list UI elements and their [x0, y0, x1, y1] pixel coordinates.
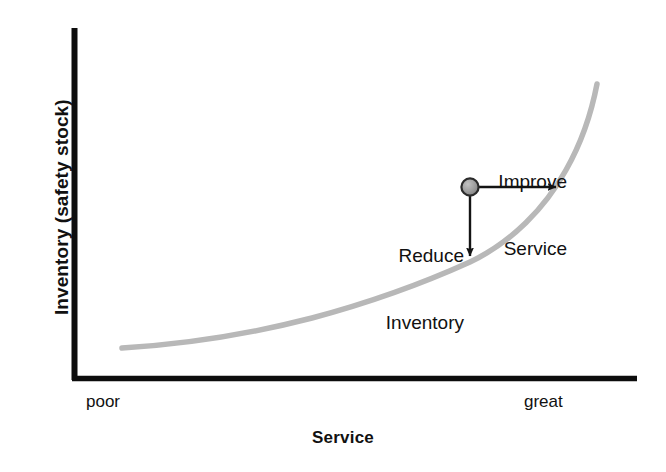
- annotation-reduce-inventory-line1: Reduce: [283, 245, 464, 267]
- x-tick-label-great: great: [524, 392, 563, 412]
- annotation-improve-service-line1: Improve: [363, 171, 567, 193]
- annotation-reduce-inventory: Reduce Inventory: [283, 200, 464, 379]
- x-tick-label-poor: poor: [86, 392, 120, 412]
- annotation-reduce-inventory-line2: Inventory: [283, 312, 464, 334]
- y-axis-title: Inventory (safety stock): [51, 57, 73, 357]
- chart-figure: Inventory (safety stock) Service poor gr…: [0, 0, 666, 472]
- x-axis-title: Service: [243, 428, 443, 448]
